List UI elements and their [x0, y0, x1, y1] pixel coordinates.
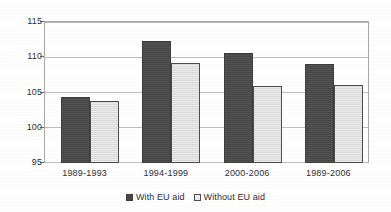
- bar-with-eu-aid: [142, 41, 171, 163]
- legend-item-without-eu-aid: Without EU aid: [194, 192, 265, 202]
- dark-swatch-icon: [126, 194, 133, 201]
- bar-groups: [44, 21, 369, 163]
- bar-without-eu-aid: [334, 85, 363, 163]
- y-axis-tick-label: 105: [8, 88, 42, 97]
- bar-without-eu-aid: [90, 101, 119, 163]
- bar-without-eu-aid: [253, 86, 282, 163]
- bar-group: [125, 21, 206, 163]
- legend-label: With EU aid: [136, 192, 185, 202]
- y-axis-tick-label: 100: [8, 123, 42, 132]
- bar-without-eu-aid: [171, 63, 200, 163]
- x-axis-tick-label: 1994-1999: [125, 168, 206, 179]
- x-axis-tick-label: 1989-1993: [44, 168, 125, 179]
- bar-group: [207, 21, 288, 163]
- legend-item-with-eu-aid: With EU aid: [126, 192, 185, 202]
- bar-with-eu-aid: [224, 53, 253, 163]
- x-axis-tick-label: 2000-2006: [207, 168, 288, 179]
- chart-legend: With EU aid Without EU aid: [0, 192, 391, 202]
- bar-chart: 115 110 105 100 95 1989-1993 1994-1999 2…: [0, 0, 391, 212]
- y-axis-tick-label: 115: [8, 17, 42, 26]
- bar-group: [288, 21, 369, 163]
- y-axis-tick-label: 110: [8, 52, 42, 61]
- bar-group: [44, 21, 125, 163]
- bar-with-eu-aid: [305, 64, 334, 163]
- y-axis-tick-label: 95: [8, 158, 42, 167]
- bar-with-eu-aid: [61, 97, 90, 163]
- x-axis-labels: 1989-1993 1994-1999 2000-2006 1989-2006: [44, 168, 369, 182]
- legend-label: Without EU aid: [204, 192, 265, 202]
- x-axis-tick-label: 1989-2006: [288, 168, 369, 179]
- light-swatch-icon: [194, 194, 201, 201]
